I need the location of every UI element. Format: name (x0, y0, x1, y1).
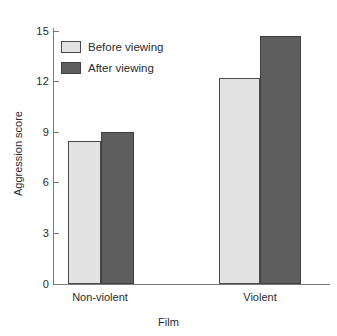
x-tick-label-non-violent: Non-violent (40, 291, 160, 303)
legend-swatch-icon-after-viewing (61, 62, 81, 74)
bar-violent-after-viewing (260, 36, 301, 284)
y-tick-label-3: 3 (9, 228, 49, 239)
legend-item-after-viewing: After viewing (61, 59, 163, 76)
x-axis-line (53, 284, 330, 285)
bar-violent-before-viewing (219, 78, 260, 284)
y-tick-label-0: 0 (9, 279, 49, 290)
y-tick-label-15: 15 (9, 26, 49, 37)
legend-label-before-viewing: Before viewing (88, 41, 163, 53)
y-tick-mark-6 (54, 182, 59, 183)
y-tick-mark-9 (54, 132, 59, 133)
y-tick-mark-3 (54, 233, 59, 234)
x-tick-label-violent: Violent (200, 291, 320, 303)
legend-swatch-icon-before-viewing (61, 41, 81, 53)
x-axis-title: Film (0, 317, 337, 328)
y-tick-label-12: 12 (9, 76, 49, 87)
y-tick-mark-15 (54, 31, 59, 32)
bar-chart: 15 12 9 6 3 0 Aggression score Non-viole… (0, 0, 337, 336)
legend-label-after-viewing: After viewing (88, 62, 154, 74)
y-axis-line (53, 28, 54, 285)
y-axis-title: Aggression score (13, 94, 24, 214)
y-tick-mark-12 (54, 81, 59, 82)
bar-non-violent-before-viewing (68, 141, 101, 284)
legend: Before viewing After viewing (61, 38, 163, 80)
legend-item-before-viewing: Before viewing (61, 38, 163, 55)
bar-non-violent-after-viewing (101, 132, 134, 284)
